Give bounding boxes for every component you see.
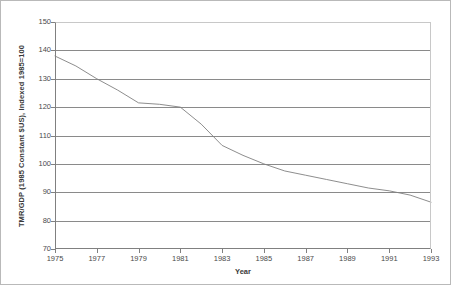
x-tick-mark-1991 bbox=[389, 249, 390, 253]
y-tick-label-100: 100 bbox=[5, 160, 51, 168]
y-tick-label-110: 110 bbox=[5, 132, 51, 140]
x-tick-mark-1977 bbox=[97, 249, 98, 253]
x-tick-label-1993: 1993 bbox=[423, 254, 440, 263]
y-tick-label-120: 120 bbox=[5, 103, 51, 111]
y-tick-label-90: 90 bbox=[5, 188, 51, 196]
series-polyline bbox=[55, 56, 431, 202]
x-tick-mark-1989 bbox=[347, 249, 348, 253]
x-tick-label-1979: 1979 bbox=[130, 254, 147, 263]
chart-figure: TMR/GDP (1985 Constant $US), Indexed 198… bbox=[0, 0, 451, 285]
x-tick-label-1991: 1991 bbox=[381, 254, 398, 263]
series-line-tmr-gdp bbox=[55, 22, 431, 249]
x-tick-mark-1993 bbox=[431, 249, 432, 253]
x-tick-label-1975: 1975 bbox=[47, 254, 64, 263]
plot-area bbox=[55, 22, 431, 249]
y-tick-label-80: 80 bbox=[5, 217, 51, 225]
y-tick-label-150: 150 bbox=[5, 18, 51, 26]
x-tick-mark-1983 bbox=[222, 249, 223, 253]
x-tick-label-1989: 1989 bbox=[339, 254, 356, 263]
x-tick-mark-1975 bbox=[55, 249, 56, 253]
x-tick-mark-1985 bbox=[264, 249, 265, 253]
x-tick-label-1987: 1987 bbox=[297, 254, 314, 263]
x-tick-mark-1981 bbox=[180, 249, 181, 253]
x-tick-label-1977: 1977 bbox=[88, 254, 105, 263]
x-tick-label-1985: 1985 bbox=[256, 254, 273, 263]
x-tick-mark-1987 bbox=[306, 249, 307, 253]
x-tick-label-1981: 1981 bbox=[172, 254, 189, 263]
y-tick-label-70: 70 bbox=[5, 245, 51, 253]
y-tick-label-130: 130 bbox=[5, 75, 51, 83]
x-tick-mark-1979 bbox=[139, 249, 140, 253]
x-axis-title: Year bbox=[55, 267, 431, 276]
y-tick-label-140: 140 bbox=[5, 46, 51, 54]
x-tick-label-1983: 1983 bbox=[214, 254, 231, 263]
y-axis-tick-labels: 150140130120110100908070 bbox=[1, 22, 51, 249]
x-axis-tick-labels: 1975197719791981198319851987198919911993 bbox=[1, 254, 451, 266]
